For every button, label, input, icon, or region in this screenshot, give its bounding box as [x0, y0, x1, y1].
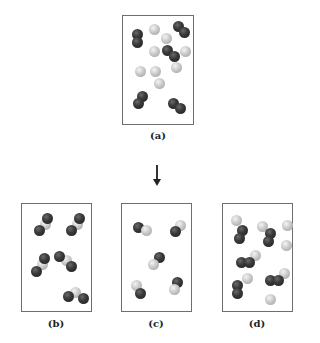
panel-d-box — [222, 203, 293, 312]
panel-a-label: (a) — [138, 130, 178, 141]
arrow-down-icon — [153, 179, 161, 186]
light-atom — [265, 294, 276, 305]
light-atom — [180, 46, 191, 57]
light-atom — [281, 240, 292, 251]
light-atom — [161, 33, 172, 44]
dark-atom — [74, 213, 85, 224]
panel-a-box — [122, 15, 194, 125]
light-atom — [141, 225, 152, 236]
panel-b-box — [21, 203, 92, 312]
panel-b-label: (b) — [36, 318, 76, 329]
dark-atom — [179, 27, 190, 38]
dark-atom — [263, 236, 274, 247]
dark-atom — [63, 291, 74, 302]
dark-atom — [135, 288, 146, 299]
dark-atom — [244, 257, 255, 268]
light-atom — [169, 284, 180, 295]
dark-atom — [132, 37, 143, 48]
dark-atom — [133, 98, 144, 109]
reaction-arrow-shaft — [156, 165, 158, 180]
light-atom — [148, 259, 159, 270]
dark-atom — [31, 266, 42, 277]
dark-atom — [175, 103, 186, 114]
dark-atom — [232, 288, 243, 299]
light-atom — [150, 66, 161, 77]
panel-c-label: (c) — [136, 318, 176, 329]
dark-atom — [273, 275, 284, 286]
dark-atom — [66, 261, 77, 272]
dark-atom — [42, 213, 53, 224]
dark-atom — [78, 293, 89, 304]
dark-atom — [34, 225, 45, 236]
dark-atom — [170, 226, 181, 237]
light-atom — [149, 24, 160, 35]
light-atom — [171, 62, 182, 73]
panel-d-label: (d) — [237, 318, 277, 329]
light-atom — [149, 46, 160, 57]
light-atom — [154, 78, 165, 89]
dark-atom — [54, 251, 65, 262]
dark-atom — [169, 51, 180, 62]
dark-atom — [66, 225, 77, 236]
light-atom — [135, 66, 146, 77]
panel-c-box — [121, 203, 192, 312]
light-atom — [282, 220, 293, 231]
dark-atom — [39, 253, 50, 264]
dark-atom — [234, 233, 245, 244]
light-atom — [242, 273, 253, 284]
